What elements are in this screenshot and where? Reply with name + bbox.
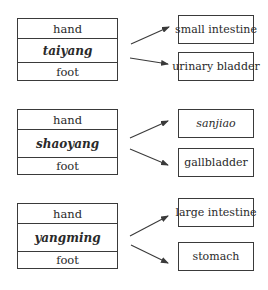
connector-arrows [0, 0, 268, 290]
arrow-icon [130, 216, 168, 236]
arrow-icon [130, 149, 168, 165]
arrow-icon [130, 58, 168, 64]
arrow-icon [131, 245, 168, 263]
arrow-icon [131, 27, 169, 44]
arrow-icon [130, 121, 168, 138]
